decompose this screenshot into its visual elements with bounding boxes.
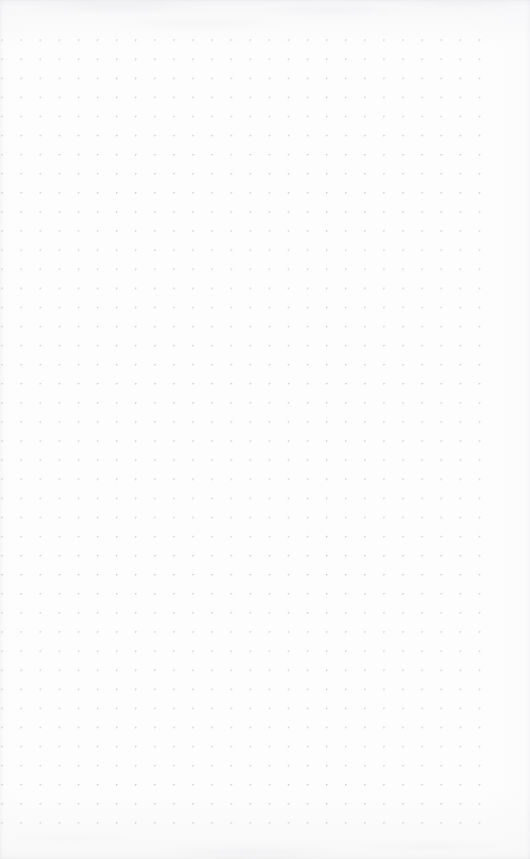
dot-grid-page [0, 0, 530, 859]
paper-background [0, 0, 530, 859]
